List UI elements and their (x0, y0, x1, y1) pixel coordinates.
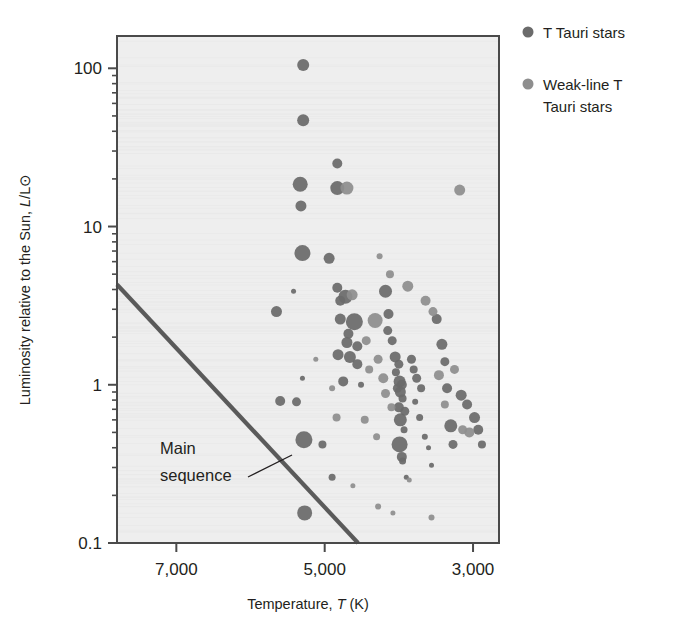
data-point (378, 373, 388, 383)
data-point (300, 376, 305, 381)
data-point (429, 514, 435, 520)
data-point (462, 400, 472, 410)
data-point (335, 296, 345, 306)
data-point (386, 270, 394, 278)
data-point (426, 445, 431, 450)
y-axis: 0.1110100 (74, 59, 117, 553)
data-point (381, 389, 390, 398)
data-point (434, 370, 444, 380)
legend: T Tauri starsWeak-line TTauri stars (523, 24, 625, 115)
data-point (440, 357, 449, 366)
data-point (441, 401, 449, 409)
data-point (375, 504, 381, 510)
x-tick-label: 5,000 (303, 560, 346, 579)
data-point (392, 368, 400, 376)
data-point (473, 425, 483, 435)
data-point (417, 384, 425, 392)
data-point (352, 359, 362, 369)
data-point (335, 314, 346, 325)
legend-label-t-tauri: T Tauri stars (543, 24, 625, 41)
data-point (379, 285, 392, 298)
y-tick-label: 10 (83, 218, 102, 237)
data-point (347, 289, 358, 300)
data-point (469, 412, 480, 423)
data-point (449, 440, 458, 449)
data-point (333, 349, 344, 360)
data-point (292, 397, 301, 406)
data-point (399, 457, 406, 464)
data-point (416, 414, 423, 421)
data-point (332, 159, 342, 169)
data-point (450, 365, 459, 374)
data-point (390, 510, 395, 515)
data-point (412, 374, 421, 383)
data-point (295, 431, 312, 448)
x-tick-label: 3,000 (452, 560, 495, 579)
data-point (402, 281, 413, 292)
data-point (291, 289, 296, 294)
data-point (454, 185, 465, 196)
data-point (332, 283, 342, 293)
annotation-line-1: Main (160, 439, 196, 457)
legend-label-weak-line-1: Weak-line T (543, 76, 622, 93)
data-point (410, 365, 418, 373)
y-tick-label: 100 (74, 59, 102, 78)
data-point (392, 436, 408, 452)
data-point (362, 336, 371, 345)
data-point (387, 403, 395, 411)
data-point (333, 414, 341, 422)
data-point (442, 383, 452, 393)
data-point (340, 182, 353, 195)
data-point (444, 419, 457, 432)
data-point (401, 426, 408, 433)
x-axis-title: Temperature, T (K) (247, 596, 369, 612)
data-point (352, 341, 362, 351)
data-point (297, 505, 312, 520)
data-point (422, 434, 428, 440)
x-tick-label: 7,000 (155, 560, 198, 579)
data-point (338, 376, 348, 386)
data-point (294, 245, 310, 261)
y-tick-label: 1 (93, 376, 102, 395)
data-point (478, 440, 486, 448)
data-point (368, 313, 383, 328)
data-point (324, 253, 335, 264)
data-point (399, 394, 407, 402)
data-point (275, 396, 285, 406)
data-point (297, 59, 309, 71)
data-point (377, 253, 383, 259)
data-point (297, 114, 309, 126)
data-point (383, 326, 392, 335)
data-point (421, 296, 431, 306)
legend-marker-t-tauri (523, 27, 534, 38)
data-point (329, 385, 335, 391)
data-point (429, 463, 434, 468)
data-point (365, 365, 373, 373)
data-point (329, 474, 336, 481)
data-point (271, 306, 282, 317)
legend-marker-weak-line (523, 79, 534, 90)
hr-diagram-figure: 0.11101007,0005,0003,000Temperature, T (… (0, 0, 673, 635)
legend-item-t-tauri[interactable]: T Tauri stars (523, 24, 625, 41)
y-axis-title: Luminosity relative to the Sun, L/L⊙ (17, 174, 33, 405)
data-point (358, 382, 364, 388)
data-point (394, 413, 407, 426)
data-point (318, 440, 326, 448)
data-point (407, 478, 412, 483)
data-point (412, 399, 418, 405)
data-point (407, 355, 416, 364)
data-point (428, 307, 437, 316)
data-point (456, 390, 467, 401)
annotation-line-2: sequence (160, 466, 232, 484)
data-point (341, 337, 352, 348)
data-point (361, 416, 369, 424)
legend-item-weak-line-t-tauri[interactable]: Weak-line TTauri stars (523, 76, 623, 115)
data-point (436, 339, 447, 350)
data-point (295, 200, 306, 211)
data-point (383, 309, 393, 319)
x-axis: 7,0005,0003,000 (155, 543, 494, 579)
data-point (374, 355, 383, 364)
data-point (394, 360, 403, 369)
data-point (350, 483, 355, 488)
data-point (388, 336, 397, 345)
